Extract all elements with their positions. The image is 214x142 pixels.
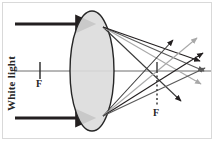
optics-diagram: White light F F — [0, 0, 214, 142]
refracted-ray-bottom-green — [103, 38, 197, 116]
refracted-ray-top-violet — [103, 27, 181, 101]
diagram-canvas — [0, 0, 214, 142]
refracted-ray-top-red — [103, 27, 204, 71]
focal-point-left-label: F — [36, 79, 42, 89]
refracted-ray-top-amber — [103, 27, 200, 61]
white-light-label: White light — [6, 55, 17, 113]
refracted-rays-from-top — [103, 27, 204, 101]
focal-point-right-label: F — [153, 108, 159, 118]
